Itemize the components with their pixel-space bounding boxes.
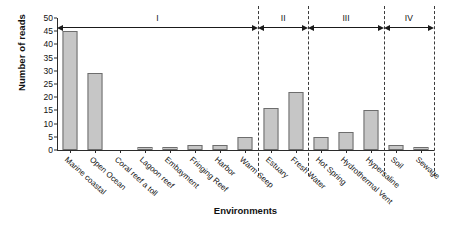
x-tick-mark [371,150,372,153]
bar-slot: Sewage [409,18,434,150]
group-span-line [63,27,252,28]
x-tick-label: Harbor [213,155,237,178]
group-span-line [314,27,377,28]
group-header: I [57,16,258,30]
bar-slot: Hydrothermal Vent [333,18,358,150]
bar [339,132,354,150]
x-tick-mark [321,150,322,153]
arrow-right-icon [428,25,434,31]
x-tick-mark [220,150,221,153]
x-tick-label: Soil [389,155,405,171]
group-divider [258,6,259,176]
bar-slot: Coral reef a toll [107,18,132,150]
bar-slot: Harbor [208,18,233,150]
y-tick-mark [54,150,57,151]
bar-series: Marine coastalOpen OceanCoral reef a tol… [57,18,434,150]
arrow-left-icon [384,25,390,31]
bar [313,137,328,150]
y-tick-mark [54,136,57,137]
x-tick-mark [145,150,146,153]
group-label: II [258,13,308,23]
group-header: II [258,16,308,30]
y-tick-mark [54,70,57,71]
bar-slot: Embayment [158,18,183,150]
bar [238,137,253,150]
group-span-line [264,27,302,28]
y-tick-mark [54,123,57,124]
group-span-line [390,27,428,28]
y-tick-mark [54,110,57,111]
bar-slot: Soil [384,18,409,150]
group-header: IV [384,16,434,30]
bar-slot: Estuary [258,18,283,150]
group-label: I [57,13,258,23]
x-tick-mark [70,150,71,153]
arrow-left-icon [258,25,264,31]
arrow-left-icon [57,25,63,31]
group-header: III [308,16,383,30]
x-tick-mark [245,150,246,153]
bar [87,73,102,150]
group-divider [384,6,385,176]
bar-slot: Hypersaline [359,18,384,150]
bar [62,31,77,150]
bar-slot: Lagoon reef [132,18,157,150]
y-tick-mark [54,44,57,45]
x-tick-mark [95,150,96,153]
plot-area: Marine coastalOpen OceanCoral reef a tol… [57,18,434,150]
x-tick-mark [271,150,272,153]
y-tick-mark [54,57,57,58]
bar [364,110,379,150]
x-axis-title: Environments [57,205,434,216]
group-divider [434,6,435,176]
bar [263,108,278,150]
y-axis-title: Number of reads [16,0,27,118]
x-tick-mark [120,150,121,153]
bar-slot: Hot Spring [308,18,333,150]
bar [288,92,303,150]
bar-slot: Fresh Water [283,18,308,150]
bar-slot: Fringing Reef [183,18,208,150]
bar-slot: Warm Seep [233,18,258,150]
x-tick-mark [421,150,422,153]
arrow-left-icon [308,25,314,31]
group-label: III [308,13,383,23]
x-tick-mark [396,150,397,153]
x-tick-mark [346,150,347,153]
x-tick-mark [170,150,171,153]
bar-slot: Open Ocean [82,18,107,150]
x-tick-mark [195,150,196,153]
y-tick-mark [54,97,57,98]
group-divider [308,6,309,176]
x-tick-label: Sewage [414,155,442,181]
group-label: IV [384,13,434,23]
chart-figure: Number of reads Marine coastalOpen Ocean… [0,0,452,230]
bar-slot: Marine coastal [57,18,82,150]
y-tick-mark [54,84,57,85]
x-tick-mark [296,150,297,153]
